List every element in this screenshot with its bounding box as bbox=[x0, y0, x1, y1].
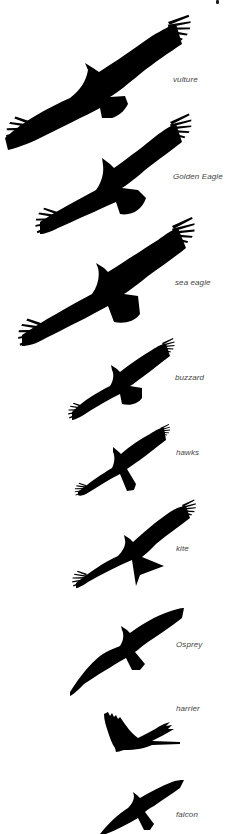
hawks-silhouette-icon bbox=[74, 424, 170, 496]
label-osprey: Osprey bbox=[176, 640, 202, 649]
label-falcon: falcon bbox=[176, 810, 198, 819]
label-kite: kite bbox=[176, 544, 189, 553]
falcon-silhouette-icon bbox=[100, 780, 184, 834]
buzzard-silhouette-icon bbox=[68, 338, 175, 420]
label-buzzard: buzzard bbox=[175, 373, 204, 382]
osprey-silhouette-icon bbox=[70, 608, 184, 696]
vulture-silhouette-icon bbox=[5, 13, 191, 150]
sea-eagle-silhouette-icon bbox=[18, 217, 195, 347]
raptor-silhouette-chart: vulture Golden Eagle sea eagle buzzard h… bbox=[0, 0, 227, 834]
label-sea-eagle: sea eagle bbox=[175, 278, 211, 287]
label-vulture: vulture bbox=[173, 75, 198, 84]
harrier-silhouette-icon bbox=[104, 712, 180, 752]
golden-eagle-silhouette-icon bbox=[35, 114, 191, 235]
label-harrier: harrier bbox=[176, 704, 200, 713]
label-hawks: hawks bbox=[176, 448, 199, 457]
label-golden-eagle: Golden Eagle bbox=[173, 172, 223, 181]
